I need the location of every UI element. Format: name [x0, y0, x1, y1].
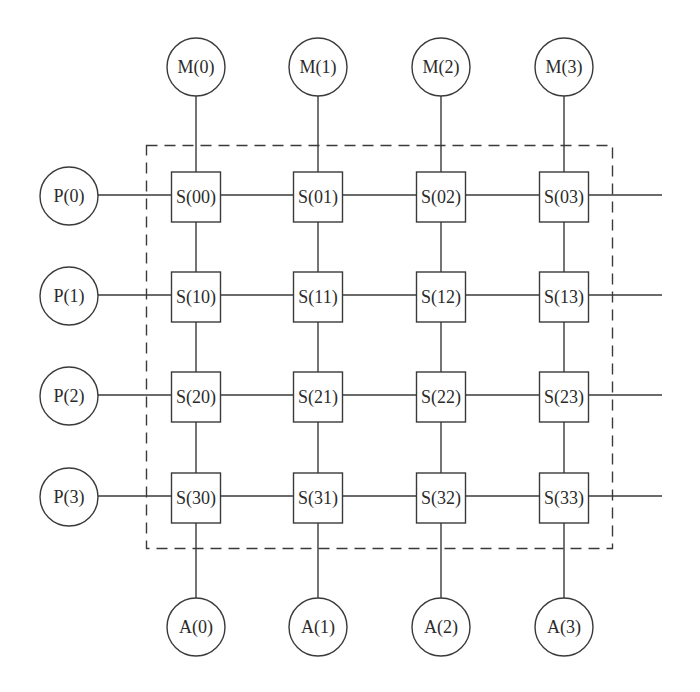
- switch-label: S(20): [176, 387, 216, 408]
- switch-02: S(02): [417, 172, 466, 222]
- processor-2-label: P(2): [54, 386, 85, 407]
- switch-label: S(23): [544, 387, 584, 408]
- memory-module-1-label: M(1): [300, 57, 337, 78]
- switch-label: S(22): [421, 387, 461, 408]
- memory-module-0-label: M(0): [178, 57, 215, 78]
- processor-1-label: P(1): [54, 286, 85, 307]
- switch-label: S(01): [298, 187, 338, 208]
- switch-label: S(31): [298, 488, 338, 509]
- switch-11: S(11): [294, 272, 343, 322]
- bottom-node-3: A(3): [535, 598, 593, 656]
- switch-label: S(33): [544, 488, 584, 509]
- processor-3-label: P(3): [54, 487, 85, 508]
- switch-22: S(22): [417, 372, 466, 422]
- switch-30: S(30): [172, 473, 221, 523]
- bottom-node-3-label: A(3): [547, 617, 581, 638]
- bottom-node-1: A(1): [289, 598, 347, 656]
- switch-label: S(00): [176, 187, 216, 208]
- switch-20: S(20): [172, 372, 221, 422]
- switch-13: S(13): [540, 272, 589, 322]
- memory-module-2-label: M(2): [423, 57, 460, 78]
- processor-2: P(2): [40, 367, 98, 425]
- switch-12: S(12): [417, 272, 466, 322]
- switch-label: S(03): [544, 187, 584, 208]
- switch-31: S(31): [294, 473, 343, 523]
- memory-module-2: M(2): [412, 38, 470, 96]
- switch-label: S(02): [421, 187, 461, 208]
- switch-label: S(21): [298, 387, 338, 408]
- switch-label: S(30): [176, 488, 216, 509]
- switch-label: S(32): [421, 488, 461, 509]
- switch-33: S(33): [540, 473, 589, 523]
- memory-module-3-label: M(3): [546, 57, 583, 78]
- bottom-node-2: A(2): [412, 598, 470, 656]
- switch-03: S(03): [540, 172, 589, 222]
- switch-label: S(13): [544, 287, 584, 308]
- bottom-node-2-label: A(2): [424, 617, 458, 638]
- bottom-node-1-label: A(1): [301, 617, 335, 638]
- switch-21: S(21): [294, 372, 343, 422]
- processor-0: P(0): [40, 167, 98, 225]
- switch-01: S(01): [294, 172, 343, 222]
- switch-00: S(00): [172, 172, 221, 222]
- memory-module-3: M(3): [535, 38, 593, 96]
- nodes-layer: M(0)M(1)M(2)M(3)P(0)P(1)P(2)P(3)A(0)A(1)…: [40, 38, 593, 656]
- switch-label: S(10): [176, 287, 216, 308]
- bottom-node-0-label: A(0): [179, 617, 213, 638]
- switch-23: S(23): [540, 372, 589, 422]
- switch-10: S(10): [172, 272, 221, 322]
- processor-0-label: P(0): [54, 186, 85, 207]
- switch-label: S(12): [421, 287, 461, 308]
- bottom-node-0: A(0): [167, 598, 225, 656]
- memory-module-0: M(0): [167, 38, 225, 96]
- switch-label: S(11): [298, 287, 337, 308]
- switch-32: S(32): [417, 473, 466, 523]
- memory-module-1: M(1): [289, 38, 347, 96]
- processor-3: P(3): [40, 468, 98, 526]
- processor-1: P(1): [40, 267, 98, 325]
- crossbar-diagram: M(0)M(1)M(2)M(3)P(0)P(1)P(2)P(3)A(0)A(1)…: [0, 0, 700, 692]
